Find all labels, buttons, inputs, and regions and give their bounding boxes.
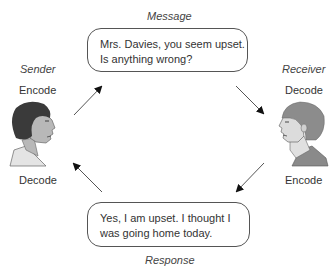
- sender-face-icon: [10, 102, 55, 166]
- arrow-response-to-sender: [74, 164, 102, 192]
- arrow-message-to-receiver: [236, 86, 263, 113]
- receiver-face-icon: [279, 102, 328, 166]
- arrow-sender-to-message: [74, 87, 101, 115]
- diagram-graphics: [0, 0, 332, 274]
- arrow-receiver-to-response: [237, 163, 264, 191]
